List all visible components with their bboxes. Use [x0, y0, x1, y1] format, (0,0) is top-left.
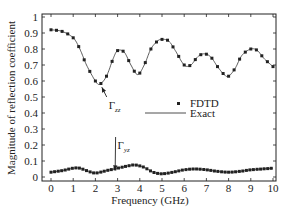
- fdtd-marker: [155, 41, 158, 44]
- x-tick-label: 4: [137, 182, 143, 194]
- fdtd-marker: [256, 168, 259, 171]
- fdtd-marker: [220, 170, 223, 173]
- fdtd-marker: [116, 49, 119, 52]
- fdtd-marker: [117, 167, 120, 170]
- fdtd-marker: [245, 169, 248, 172]
- fdtd-marker: [167, 172, 170, 175]
- x-tick-label: 5: [159, 182, 165, 194]
- fdtd-marker: [96, 171, 99, 174]
- x-tick-label: 3: [115, 182, 121, 194]
- fdtd-marker: [199, 168, 202, 171]
- x-tick-label: 7: [204, 182, 210, 194]
- fdtd-marker: [77, 45, 80, 48]
- fdtd-marker: [205, 53, 208, 56]
- fdtd-marker: [177, 169, 180, 172]
- annotations: ΓzzΓyz: [102, 87, 130, 170]
- fdtd-marker: [227, 75, 230, 78]
- y-tick-label: 0.3: [24, 123, 38, 135]
- fdtd-marker: [105, 75, 108, 78]
- fdtd-marker: [94, 80, 97, 83]
- fdtd-marker: [238, 170, 241, 173]
- fdtd-marker: [210, 57, 213, 60]
- fdtd-marker: [206, 168, 209, 171]
- y-tick-label: 1: [33, 11, 39, 23]
- fdtd-marker: [266, 60, 269, 63]
- x-tick-label: 2: [93, 182, 99, 194]
- fdtd-marker: [64, 169, 67, 172]
- y-tick-label: 0.8: [24, 43, 38, 55]
- fdtd-marker: [266, 167, 269, 170]
- fdtd-marker: [53, 170, 56, 173]
- fdtd-marker: [199, 53, 202, 56]
- fdtd-marker: [99, 171, 102, 174]
- fdtd-marker: [202, 168, 205, 171]
- fdtd-marker: [161, 38, 164, 41]
- y-tick-label: 0.7: [24, 59, 38, 71]
- fdtd-marker: [160, 172, 163, 175]
- fdtd-marker: [177, 55, 180, 58]
- fdtd-marker: [216, 65, 219, 68]
- x-tick-label: 1: [70, 182, 76, 194]
- fdtd-marker: [213, 170, 216, 173]
- fdtd-marker: [60, 169, 63, 172]
- fdtd-marker: [122, 50, 125, 53]
- y-tick-label: 0.9: [24, 27, 38, 39]
- fdtd-marker: [260, 54, 263, 57]
- fdtd-marker: [55, 29, 58, 32]
- fdtd-marker: [222, 72, 225, 75]
- fdtd-marker: [128, 164, 131, 167]
- legend-exact-label: Exact: [190, 107, 215, 119]
- fdtd-marker: [81, 168, 84, 171]
- fdtd-marker: [241, 170, 244, 173]
- fdtd-marker: [270, 167, 273, 170]
- fdtd-marker: [138, 164, 141, 167]
- fdtd-marker: [138, 72, 141, 75]
- y-tick-label: 0.5: [24, 91, 38, 103]
- fdtd-marker: [103, 170, 106, 173]
- x-axis-label: Frequency (GHz): [111, 194, 189, 207]
- y-tick-label: 0.2: [24, 139, 38, 151]
- fdtd-marker: [50, 28, 53, 31]
- fdtd-marker: [67, 168, 70, 171]
- fdtd-marker: [133, 70, 136, 73]
- y-tick-label: 0.1: [24, 155, 38, 167]
- y-axis-label: Magnitude of reflection coefficient: [5, 21, 17, 175]
- legend-fdtd-marker: [177, 102, 180, 105]
- fdtd-marker: [74, 166, 77, 169]
- fdtd-marker: [224, 171, 227, 174]
- fdtd-marker: [111, 60, 114, 63]
- fdtd-marker: [163, 172, 166, 175]
- fdtd-marker: [188, 64, 191, 67]
- fdtd-marker: [244, 51, 247, 54]
- fdtd-marker: [106, 169, 109, 172]
- x-tick-label: 8: [226, 182, 232, 194]
- fdtd-marker: [149, 48, 152, 51]
- reflection-coefficient-chart: 00.10.20.30.40.50.60.70.80.91 0123456789…: [0, 0, 294, 216]
- fdtd-marker: [85, 169, 88, 172]
- fdtd-marker: [192, 168, 195, 171]
- fdtd-marker: [57, 170, 60, 173]
- fdtd-marker: [233, 68, 236, 71]
- fdtd-marker: [149, 169, 152, 172]
- fdtd-marker: [195, 168, 198, 171]
- y-axis: 00.10.20.30.40.50.60.70.80.91: [24, 11, 276, 183]
- fdtd-marker: [188, 168, 191, 171]
- y-tick-label: 0.4: [24, 107, 38, 119]
- fdtd-marker: [227, 171, 230, 174]
- fdtd-marker: [153, 171, 156, 174]
- fdtd-marker: [92, 171, 95, 174]
- fdtd-marker: [255, 48, 258, 51]
- x-tick-label: 6: [181, 182, 187, 194]
- fdtd-marker: [110, 168, 113, 171]
- fdtd-marker: [170, 171, 173, 174]
- fdtd-marker: [259, 168, 262, 171]
- chart-canvas: 00.10.20.30.40.50.60.70.80.91 0123456789…: [0, 0, 294, 216]
- fdtd-marker: [127, 59, 130, 62]
- fdtd-marker: [216, 170, 219, 173]
- x-tick-label: 10: [268, 182, 280, 194]
- fdtd-marker: [124, 165, 127, 168]
- annotation-label-yz: Γyz: [118, 139, 130, 154]
- legend: FDTD Exact: [145, 97, 219, 119]
- fdtd-marker: [144, 61, 147, 64]
- fdtd-marker: [89, 170, 92, 173]
